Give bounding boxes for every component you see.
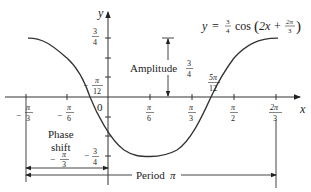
svg-text:12: 12 — [93, 87, 101, 96]
svg-text:−: − — [83, 80, 88, 90]
equation-title: y = 3 4 cos ( 2x + 2π 3 ) — [201, 18, 301, 35]
svg-text:−: − — [84, 150, 89, 160]
x-tick-label-pi-6: π 6 — [146, 103, 154, 123]
svg-text:4: 4 — [187, 70, 191, 79]
svg-text:Phase: Phase — [48, 128, 74, 140]
svg-text:Period: Period — [136, 169, 165, 181]
svg-text:cos: cos — [235, 19, 251, 33]
svg-text:Amplitude: Amplitude — [130, 62, 177, 74]
svg-text:3: 3 — [93, 147, 97, 156]
svg-text:3: 3 — [26, 114, 30, 123]
x-tick-label-2pi-3: 2π 3 — [269, 103, 282, 123]
svg-text:−: − — [50, 154, 55, 164]
svg-text:π: π — [26, 103, 31, 112]
x-tick-label-pi-2: π 2 — [230, 103, 238, 123]
svg-text:3: 3 — [288, 27, 292, 35]
x-tick-label-pi-3: π 3 — [188, 103, 196, 123]
svg-text:4: 4 — [93, 158, 97, 167]
svg-text:2x +: 2x + — [259, 19, 281, 33]
svg-text:): ) — [296, 18, 301, 35]
svg-text:2: 2 — [231, 114, 235, 123]
svg-text:3: 3 — [93, 27, 97, 36]
y-axis-label: y — [97, 6, 104, 20]
svg-text:shift: shift — [51, 141, 71, 153]
svg-text:3: 3 — [187, 59, 191, 68]
svg-text:π: π — [67, 103, 72, 112]
svg-text:π: π — [147, 103, 152, 112]
svg-text:−: − — [16, 110, 21, 120]
svg-text:4: 4 — [93, 38, 97, 47]
svg-text:=: = — [212, 19, 219, 33]
x-axis-label: x — [299, 102, 306, 116]
svg-text:3: 3 — [226, 18, 230, 26]
svg-text:6: 6 — [147, 114, 151, 123]
svg-text:π: π — [95, 76, 100, 85]
y-tick-label-3-4: 3 4 — [92, 27, 99, 47]
svg-text:π: π — [189, 103, 194, 112]
svg-text:2π: 2π — [270, 103, 279, 112]
svg-text:3: 3 — [273, 114, 277, 123]
x-tick-label-neg-pi-3: − π 3 — [16, 103, 33, 123]
origin-label: 0 — [97, 101, 103, 113]
x-tick-label-neg-pi-6: − π 6 — [57, 103, 74, 123]
svg-text:−: − — [57, 110, 62, 120]
period-label: Period π — [136, 169, 176, 181]
zero-label-neg-pi-12: − π 12 — [83, 76, 103, 96]
y-tick-label-neg-3-4: − 3 4 — [84, 147, 99, 167]
svg-text:2π: 2π — [286, 18, 294, 26]
svg-text:π: π — [170, 169, 176, 181]
svg-text:6: 6 — [67, 114, 71, 123]
svg-text:π: π — [231, 103, 236, 112]
svg-text:3: 3 — [62, 160, 66, 169]
svg-text:5π: 5π — [209, 73, 218, 82]
svg-text:4: 4 — [226, 27, 230, 35]
svg-text:y: y — [201, 19, 208, 33]
amplitude-label: Amplitude 3 4 — [130, 59, 193, 79]
svg-text:3: 3 — [189, 114, 193, 123]
cosine-graph: y x 0 − π 3 − π 6 π 6 π 3 π 2 2π 3 3 4 − — [0, 0, 311, 192]
phase-shift-label: Phase shift − π 3 — [48, 128, 74, 169]
svg-text:12: 12 — [209, 84, 217, 93]
